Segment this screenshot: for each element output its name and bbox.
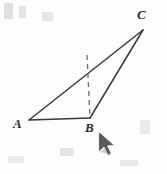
vertex-label-b: B xyxy=(85,121,94,134)
vertex-label-c: C xyxy=(137,8,146,21)
paper-background xyxy=(0,0,167,174)
vertex-label-a: A xyxy=(13,117,22,130)
triangle-figure xyxy=(0,0,167,174)
geometry-figure-screenshot: A B C xyxy=(0,0,167,174)
